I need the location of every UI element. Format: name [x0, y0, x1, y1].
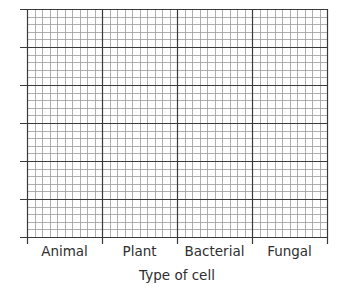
category-label-animal: Animal [27, 243, 102, 259]
category-label-fungal: Fungal [252, 243, 327, 259]
category-label-plant: Plant [102, 243, 177, 259]
x-axis-title: Type of cell [102, 267, 252, 283]
category-label-bacterial: Bacterial [177, 243, 252, 259]
